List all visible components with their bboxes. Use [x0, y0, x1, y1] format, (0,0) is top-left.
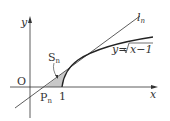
- point-label: Pn: [40, 91, 52, 105]
- x-axis-label: x: [150, 88, 157, 101]
- tick-label-one: 1: [59, 90, 66, 103]
- tangent-line: [15, 16, 140, 108]
- y-axis-arrow-icon: [28, 16, 32, 23]
- area-label: Sn: [48, 51, 61, 65]
- y-axis-label: y: [20, 16, 28, 29]
- area-pointer: [53, 63, 57, 77]
- tangent-label: ln: [137, 11, 146, 25]
- diagram-canvas: y x O ln y= x−1 Sn Pn 1: [0, 0, 170, 121]
- curve-label: y=: [111, 43, 127, 56]
- curve-radicand: x−1: [130, 43, 152, 56]
- origin-label: O: [17, 75, 26, 88]
